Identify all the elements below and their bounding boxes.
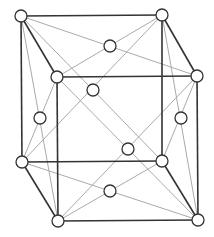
corner-atom-ftl [51,71,63,83]
fcc-unit-cell-diagram [0,0,214,237]
face-center-atom-c_top [104,40,116,52]
cube-edge-line [21,16,22,162]
face-center-atom-c_bottom [104,185,116,197]
face-center-atom-c_right [175,112,187,124]
corner-atom-btl [15,10,27,22]
face-center-atom-c_left [34,112,46,124]
cube-edge-line [21,15,162,16]
cube-edge-line [58,220,198,221]
cube-edge-line [57,76,197,77]
cube-edge-line [197,76,198,220]
corner-atom-btr [156,9,168,21]
cube-edge-line [22,161,162,162]
corner-atom-fbl [52,215,64,227]
face-center-atom-c_back [87,84,99,96]
cube-edge-line [57,77,58,221]
face-center-atom-c_front [122,143,134,155]
corner-atom-bbr [156,155,168,167]
corner-atom-bbl [16,156,28,168]
atoms [15,9,204,227]
corner-atom-ftr [191,70,203,82]
corner-atom-fbr [192,214,204,226]
